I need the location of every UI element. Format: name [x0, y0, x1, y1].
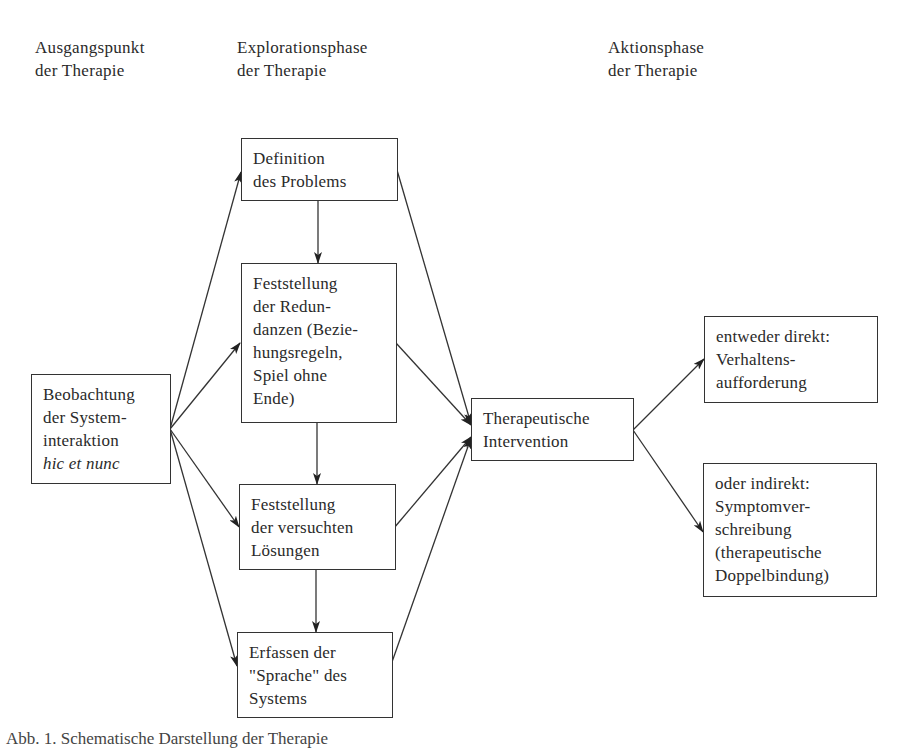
- node-redundancies-line-1: Feststellung: [253, 272, 386, 295]
- node-redundancies-line-3: danzen (Bezie-: [253, 318, 386, 341]
- node-indirect-line-3: schreibung: [715, 518, 866, 541]
- node-observation-line-1: Beobachtung: [43, 383, 160, 406]
- node-direct-line-1: entweder direkt:: [716, 325, 867, 348]
- node-definition-line-2: des Problems: [253, 170, 387, 193]
- node-indirect-line-4: (therapeutische: [715, 541, 866, 564]
- node-language: Erfassen der "Sprache" des Systems: [237, 632, 393, 718]
- node-direct-line-2: Verhaltens-: [716, 348, 867, 371]
- node-language-line-2: "Sprache" des: [249, 664, 382, 687]
- node-solutions-line-1: Feststellung: [251, 493, 385, 516]
- node-indirect-line-2: Symptomver-: [715, 495, 866, 518]
- node-solutions-line-3: Lösungen: [251, 539, 385, 562]
- node-language-line-1: Erfassen der: [249, 641, 382, 664]
- node-intervention-line-2: Intervention: [483, 430, 623, 453]
- arrow-solutions-to-intervention: [394, 437, 471, 528]
- arrow-language-to-intervention: [392, 438, 471, 662]
- node-definition-line-1: Definition: [253, 147, 387, 170]
- figure-caption: Abb. 1. Schematische Darstellung der The…: [6, 727, 328, 750]
- node-observation-line-4: hic et nunc: [43, 452, 160, 475]
- node-intervention-line-1: Therapeutische: [483, 407, 623, 430]
- arrow-observation-to-language: [170, 429, 237, 666]
- node-definition: Definition des Problems: [241, 138, 398, 201]
- node-language-line-3: Systems: [249, 687, 382, 710]
- arrow-observation-to-solutions: [170, 429, 239, 527]
- node-observation: Beobachtung der System- interaktion hic …: [31, 374, 171, 484]
- node-redundancies-line-2: der Redun-: [253, 295, 386, 318]
- node-redundancies-line-6: Ende): [253, 387, 386, 410]
- node-indirect: oder indirekt: Symptomver- schreibung (t…: [703, 463, 877, 597]
- node-observation-line-3: interaktion: [43, 429, 160, 452]
- arrow-observation-to-definition: [170, 172, 241, 429]
- node-indirect-line-1: oder indirekt:: [715, 472, 866, 495]
- node-direct: entweder direkt: Verhaltens- aufforderun…: [704, 316, 878, 403]
- node-attempted-solutions: Feststellung der versuchten Lösungen: [239, 484, 396, 570]
- node-intervention: Therapeutische Intervention: [471, 398, 634, 461]
- arrow-observation-to-redundancies: [170, 343, 240, 429]
- node-redundancies-line-4: hungsregeln,: [253, 341, 386, 364]
- node-indirect-line-5: Doppelbindung): [715, 564, 866, 587]
- node-redundancies-line-5: Spiel ohne: [253, 364, 386, 387]
- node-observation-line-2: der System-: [43, 406, 160, 429]
- arrow-intervention-to-indirect: [633, 430, 703, 532]
- node-solutions-line-2: der versuchten: [251, 516, 385, 539]
- arrow-definition-to-intervention: [397, 170, 471, 424]
- arrow-intervention-to-direct: [633, 359, 704, 430]
- node-direct-line-3: aufforderung: [716, 371, 867, 394]
- node-redundancies: Feststellung der Redun- danzen (Bezie- h…: [241, 263, 397, 423]
